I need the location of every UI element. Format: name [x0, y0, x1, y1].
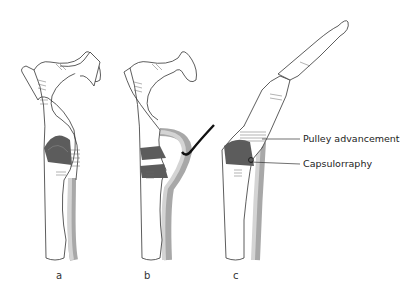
diagram-canvas	[0, 0, 406, 295]
label-capsulorraphy: Capsulorraphy	[303, 158, 372, 169]
panel-label-a: a	[56, 270, 62, 281]
finger-surgery-diagram: Pulley advancement Capsulorraphy a b c	[0, 0, 406, 295]
label-pulley-advancement: Pulley advancement	[303, 133, 400, 144]
panel-b-drawing	[124, 52, 214, 260]
panel-label-c: c	[233, 270, 239, 281]
panel-a-drawing	[22, 52, 101, 260]
panel-label-b: b	[144, 270, 150, 281]
